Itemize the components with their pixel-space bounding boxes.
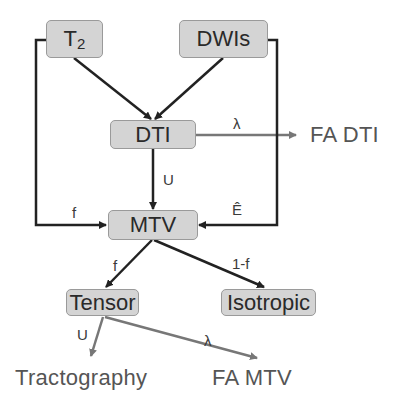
node-t2: T2 — [46, 20, 103, 58]
node-dti-label: DTI — [135, 124, 170, 146]
arrow-tensor-to-fa-mtv — [105, 317, 257, 358]
output-fa-mtv: FA MTV — [212, 367, 292, 389]
node-dwis: DWIs — [179, 20, 268, 58]
output-tractography: Tractography — [15, 367, 147, 389]
node-t2-label: T — [64, 28, 77, 50]
edge-label-tensor-fa-mtv: λ — [204, 333, 212, 348]
node-mtv: MTV — [108, 210, 198, 240]
node-dti: DTI — [110, 120, 196, 149]
node-t2-subscript: 2 — [77, 36, 85, 51]
node-dwis-label: DWIs — [197, 28, 251, 50]
arrow-tensor-to-tractography — [91, 317, 103, 356]
diagram-arrows — [0, 0, 401, 407]
arrow-dwis-to-dti — [155, 58, 223, 119]
edge-label-dti-fa-dti: λ — [233, 116, 241, 131]
arrow-t2-to-dti — [74, 58, 151, 119]
node-isotropic-label: Isotropic — [227, 292, 310, 314]
node-mtv-label: MTV — [130, 214, 176, 236]
arrow-t2-to-mtv — [36, 40, 106, 225]
output-fa-dti: FA DTI — [310, 124, 379, 146]
node-tensor-label: Tensor — [69, 292, 135, 314]
edge-label-dwis-mtv: Ê — [232, 202, 242, 217]
edge-label-dti-mtv: U — [163, 172, 174, 187]
flow-diagram: T2 DWIs DTI MTV Tensor Isotropic λ U f Ê… — [0, 0, 401, 407]
edge-label-mtv-tensor: f — [113, 258, 117, 273]
node-tensor: Tensor — [66, 289, 139, 316]
node-isotropic: Isotropic — [221, 289, 316, 316]
edge-label-t2-mtv: f — [72, 205, 76, 220]
edge-label-tensor-tractography: U — [77, 327, 88, 342]
edge-label-mtv-isotropic: 1-f — [232, 256, 250, 271]
